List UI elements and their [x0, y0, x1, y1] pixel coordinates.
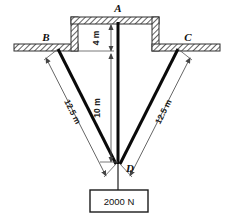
point-label-c: C — [184, 31, 192, 43]
ceiling-left-slab — [14, 44, 78, 51]
dimension-4m: 4 m — [78, 25, 114, 51]
point-label-a: A — [113, 2, 121, 14]
dimension-left-ext-bottom — [104, 164, 116, 177]
dimension-right-label: 12.5 m — [153, 97, 174, 126]
statics-diagram: 4 m 10 m 12.5 m 12.5 m A B C D — [0, 0, 232, 224]
dimension-right-cable: 12.5 m — [120, 49, 192, 177]
figure-canvas: 4 m 10 m 12.5 m 12.5 m A B C D — [0, 0, 232, 224]
ceiling-right-slab — [152, 44, 220, 51]
point-label-b: B — [41, 31, 49, 43]
point-label-d: D — [125, 162, 134, 174]
dimension-10m-label: 10 m — [92, 98, 102, 118]
dimension-left-cable: 12.5 m — [44, 49, 116, 177]
dimension-4m-label: 4 m — [91, 30, 101, 45]
load-box: 2000 N — [90, 190, 148, 212]
load-value-label: 2000 N — [104, 196, 135, 207]
dimension-left-label: 12.5 m — [62, 98, 83, 127]
recess-top-slab — [71, 17, 159, 24]
dimension-10m: 10 m — [92, 54, 118, 162]
